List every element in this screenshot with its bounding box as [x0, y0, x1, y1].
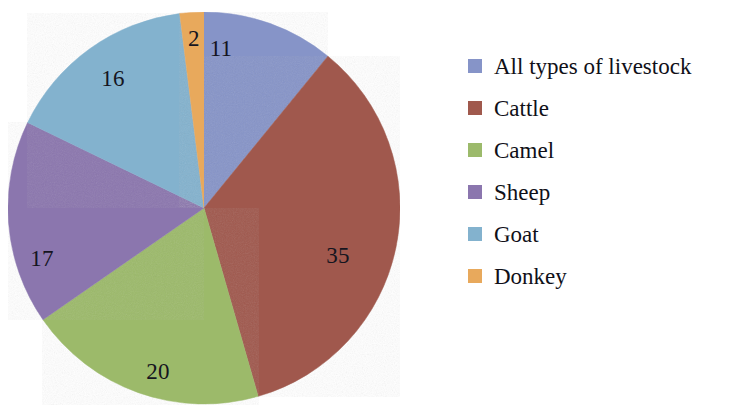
legend-item-sheep[interactable]: Sheep [468, 171, 743, 213]
legend-swatch-icon-sheep [468, 185, 482, 199]
legend-swatch-icon-cattle [468, 101, 482, 115]
legend-swatch-icon-all-types-of-livestock [468, 59, 482, 73]
slice-label-camel: 20 [146, 360, 170, 383]
legend-item-all-types-of-livestock[interactable]: All types of livestock [468, 45, 743, 87]
slice-label-sheep: 17 [30, 247, 54, 270]
legend-label-goat: Goat [494, 223, 539, 246]
pie-slices-group [8, 12, 400, 404]
slice-label-cattle: 35 [326, 244, 350, 267]
slice-label-goat: 16 [101, 67, 125, 90]
legend-label-cattle: Cattle [494, 97, 549, 120]
legend-swatch-icon-goat [468, 227, 482, 241]
legend-swatch-icon-donkey [468, 269, 482, 283]
pie-chart-figure: 11 35 20 17 16 2 All types of livestock … [0, 0, 743, 409]
pie-chart-plot-area: 11 35 20 17 16 2 [0, 0, 420, 409]
legend-label-camel: Camel [494, 139, 554, 162]
legend-item-camel[interactable]: Camel [468, 129, 743, 171]
legend-label-sheep: Sheep [494, 181, 550, 204]
legend-label-donkey: Donkey [494, 265, 567, 288]
legend-item-goat[interactable]: Goat [468, 213, 743, 255]
slice-label-all-types-of-livestock: 11 [210, 37, 233, 60]
legend-item-donkey[interactable]: Donkey [468, 255, 743, 297]
legend-label-all-types-of-livestock: All types of livestock [494, 55, 691, 78]
slice-label-donkey: 2 [188, 27, 200, 50]
legend-swatch-icon-camel [468, 143, 482, 157]
pie-chart-svg [0, 0, 420, 409]
legend-item-cattle[interactable]: Cattle [468, 87, 743, 129]
legend: All types of livestock Cattle Camel Shee… [468, 45, 743, 297]
